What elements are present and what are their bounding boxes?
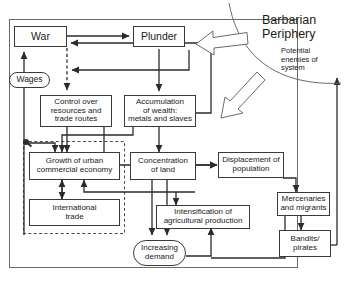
node-mercenaries-and-migrants[interactable]: Mercenaries and migrants: [277, 192, 330, 216]
node-plunder[interactable]: Plunder: [133, 26, 185, 47]
node-increasing-demand[interactable]: Increasing demand: [133, 240, 186, 266]
node-control-over-resources[interactable]: Control over resources and trade routes: [40, 95, 112, 127]
node-accumulation-of-wealth[interactable]: Accumulation of wealth: metals and slave…: [124, 95, 196, 127]
node-intensification-agriculture[interactable]: Intensification of agricultural producti…: [156, 205, 250, 229]
edge-feedback-to-wages: [72, 50, 189, 70]
diagram-canvas: War Plunder Wages Control over resources…: [0, 0, 358, 284]
node-bandits-pirates[interactable]: Bandits/ pirates: [279, 230, 331, 257]
node-war[interactable]: War: [14, 26, 67, 47]
node-wages[interactable]: Wages: [9, 72, 50, 88]
periphery-heading: Barbarian Periphery: [262, 13, 316, 42]
node-concentration-of-land[interactable]: Concentration of land: [130, 152, 196, 180]
periphery-subtext: Potential enemies of system: [281, 47, 318, 73]
node-international-trade[interactable]: International trade: [29, 199, 120, 226]
periphery-block-arrow-diagonal: [221, 72, 265, 118]
node-growth-urban-economy[interactable]: Growth of urban commercial economy: [29, 152, 120, 180]
periphery-block-arrow-left: [196, 31, 248, 55]
node-displacement-of-population[interactable]: Displacement of population: [218, 152, 284, 178]
edge-demand-to-intensification: [186, 228, 211, 256]
edge-return-to-growth: [84, 180, 195, 192]
edge-displacement-to-mercenaries: [283, 178, 296, 192]
edge-accumulation-to-growth: [62, 126, 133, 152]
